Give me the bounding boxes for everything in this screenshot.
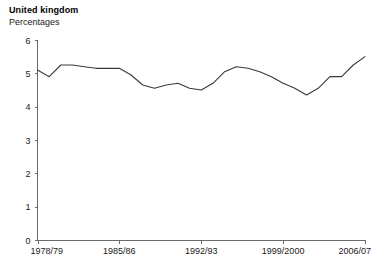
y-tick-label: 6 [25, 36, 30, 46]
y-axis: 0123456 [25, 36, 37, 246]
x-axis: 1978/791985/861992/931999/20002006/07 [31, 240, 372, 256]
y-tick-label: 4 [25, 102, 30, 112]
chart-figure: United kingdom Percentages 0123456 1978/… [0, 0, 378, 261]
data-line-percentages [38, 57, 366, 95]
line-chart-plot: 0123456 1978/791985/861992/931999/200020… [0, 0, 378, 261]
x-tick-label: 1999/2000 [262, 246, 305, 256]
x-tick-label: 1992/93 [185, 246, 218, 256]
x-tick-label: 1978/79 [31, 246, 64, 256]
y-tick-label: 1 [25, 202, 30, 212]
y-tick-label: 2 [25, 169, 30, 179]
x-tick-label: 1985/86 [103, 246, 136, 256]
x-axis-tick-labels: 1978/791985/861992/931999/20002006/07 [31, 246, 372, 256]
y-axis-tick-labels: 0123456 [25, 36, 30, 246]
y-tick-label: 3 [25, 136, 30, 146]
x-tick-label: 2006/07 [338, 246, 371, 256]
y-tick-label: 0 [25, 236, 30, 246]
data-series-group [38, 57, 366, 95]
y-tick-label: 5 [25, 69, 30, 79]
